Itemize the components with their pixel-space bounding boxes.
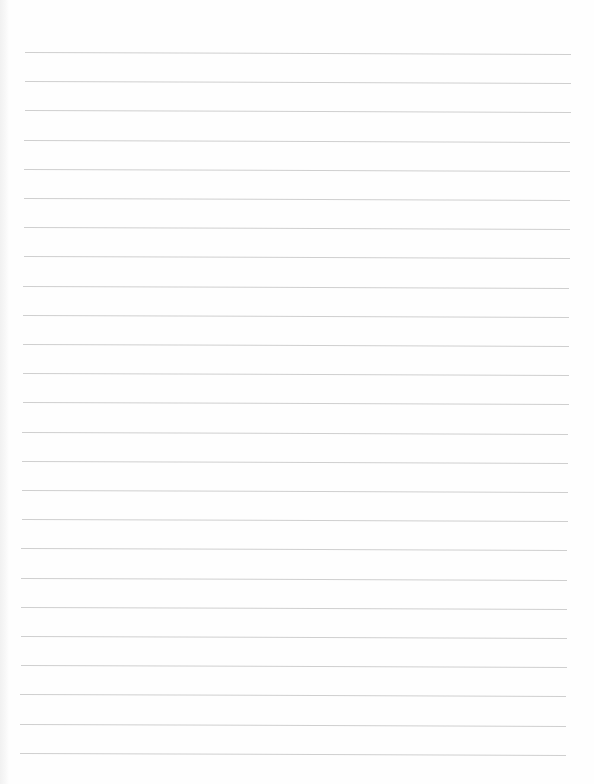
paper-edge-shadow [0, 0, 9, 784]
ruled-line [24, 256, 570, 259]
ruled-line [22, 402, 568, 405]
ruled-line [23, 344, 569, 347]
ruled-line [20, 694, 566, 697]
ruled-line [23, 373, 569, 376]
ruled-line [22, 432, 568, 435]
ruled-line [25, 110, 571, 113]
ruled-line [24, 198, 570, 201]
ruled-line [20, 724, 566, 727]
ruled-line [24, 140, 570, 143]
ruled-line [20, 753, 566, 756]
ruled-line [24, 169, 570, 172]
ruled-line [21, 548, 567, 551]
ruled-line [22, 490, 568, 493]
ruled-line [23, 315, 569, 318]
ruled-line [21, 665, 567, 668]
ruled-line [21, 578, 567, 581]
ruled-line [22, 519, 568, 522]
ruled-paper-sheet [0, 0, 594, 784]
ruled-line [21, 636, 567, 639]
ruled-line [25, 81, 571, 84]
ruled-line [21, 607, 567, 610]
ruled-line [24, 227, 570, 230]
ruled-line [23, 286, 569, 289]
ruled-line [25, 52, 571, 55]
ruled-line [22, 461, 568, 464]
